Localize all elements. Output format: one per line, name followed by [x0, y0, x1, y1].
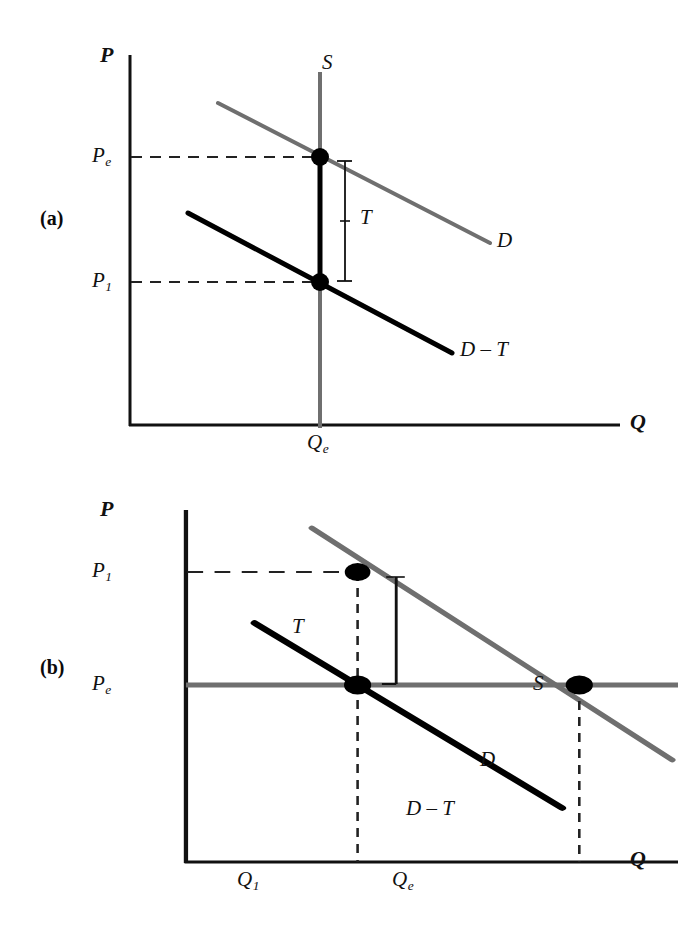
panel-a-x-axis-label: Q — [630, 411, 646, 433]
panel-a-demand-after-tax-label: D – T — [460, 339, 508, 360]
panel-a-supply-label: S — [322, 52, 333, 73]
panel-b-price-tick-p1-base: P — [92, 558, 105, 582]
panel-a-price-tick-p1-sub: 1 — [105, 279, 112, 294]
panel-b-x-axis-label: Q — [630, 848, 646, 870]
panel-b-quantity-tick-qe: Qe — [392, 869, 414, 892]
panel-a-price-tick-pe-base: P — [92, 143, 105, 167]
panel-b-point-p1 — [345, 563, 371, 581]
panel-a-quantity-tick-qe: Qe — [307, 432, 329, 455]
panel-a-tax-bracket — [337, 161, 352, 281]
panel-a-demand-label: D — [497, 230, 512, 251]
panel-b-tax-bracket — [382, 577, 405, 684]
panel-b-price-tick-pe-sub: e — [105, 682, 111, 697]
panel-a-demand-curve — [218, 103, 490, 243]
panel-a: (a) P Q Pe P1 Qe S D D – T T — [0, 0, 678, 467]
panel-b-supply-label: S — [533, 673, 544, 694]
panel-b-point-qe-equilibrium — [566, 676, 593, 695]
panel-a-plot — [0, 0, 678, 467]
panel-b-quantity-tick-q1-sub: 1 — [253, 878, 260, 893]
panel-b-demand-after-tax-label: D – T — [406, 798, 454, 819]
panel-a-price-tick-p1-base: P — [92, 268, 105, 292]
panel-b-demand-curve — [312, 528, 672, 760]
panel-b-price-tick-pe-base: P — [92, 671, 105, 695]
panel-a-point-p1 — [311, 273, 329, 291]
panel-a-quantity-tick-qe-base: Q — [307, 430, 322, 454]
figure-canvas: (a) P Q Pe P1 Qe S D D – T T — [0, 0, 678, 934]
panel-b-quantity-tick-q1: Q1 — [237, 869, 259, 892]
panel-b-price-tick-p1: P1 — [92, 560, 112, 583]
panel-b-price-tick-p1-sub: 1 — [105, 569, 112, 584]
panel-b-tag: (b) — [40, 656, 64, 679]
panel-b: (b) P Q P1 Pe Q1 Qe S D D – T T — [0, 460, 678, 934]
panel-b-y-axis-label: P — [100, 498, 113, 520]
panel-b-tax-label: T — [292, 616, 304, 637]
panel-b-price-tick-pe: Pe — [92, 673, 111, 696]
panel-b-quantity-tick-q1-base: Q — [237, 867, 252, 891]
panel-b-quantity-tick-qe-base: Q — [392, 867, 407, 891]
panel-a-quantity-tick-qe-sub: e — [323, 441, 329, 456]
panel-a-price-tick-pe-sub: e — [105, 154, 111, 169]
panel-b-quantity-tick-qe-sub: e — [408, 878, 414, 893]
panel-b-plot-sizer — [0, 460, 678, 934]
panel-a-y-axis-label: P — [100, 44, 113, 66]
panel-b-demand-label: D — [480, 749, 495, 770]
panel-a-tag: (a) — [40, 207, 63, 230]
panel-b-demand-after-tax-curve — [255, 623, 563, 808]
panel-a-point-pe — [311, 148, 329, 166]
panel-a-price-tick-pe: Pe — [92, 145, 111, 168]
panel-a-price-tick-p1: P1 — [92, 270, 112, 293]
panel-a-tax-label: T — [360, 207, 372, 228]
panel-b-point-q1-equilibrium — [344, 676, 371, 695]
